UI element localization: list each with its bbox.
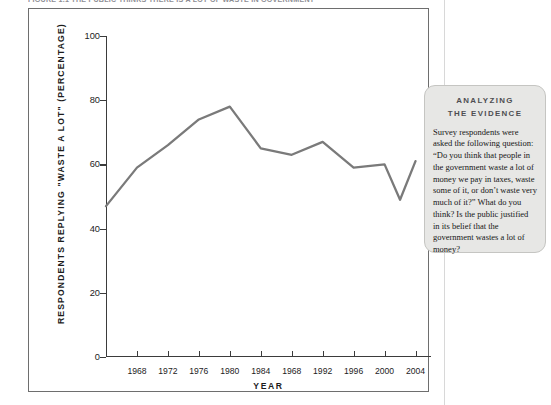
x-tick-label: 1976 bbox=[189, 366, 208, 376]
sidebar-heading: ANALYZING THE EVIDENCE bbox=[433, 95, 537, 121]
y-tick-label: 40 bbox=[90, 224, 100, 234]
x-tick-label: 2000 bbox=[375, 366, 394, 376]
y-tick-mark bbox=[100, 357, 106, 358]
sidebar-heading-line-2: THE EVIDENCE bbox=[433, 108, 537, 121]
x-tick-label: 1984 bbox=[251, 366, 270, 376]
y-tick-labels: 020406080100 bbox=[66, 36, 100, 357]
analyzing-the-evidence-box: ANALYZING THE EVIDENCE Survey respondent… bbox=[424, 85, 546, 253]
sidebar-heading-line-1: ANALYZING bbox=[433, 95, 537, 108]
data-series-line bbox=[106, 36, 431, 357]
x-tick-label: 2004 bbox=[406, 366, 425, 376]
x-axis-title: YEAR bbox=[106, 381, 431, 391]
y-tick-label: 0 bbox=[95, 352, 100, 362]
y-tick-label: 100 bbox=[84, 31, 100, 41]
y-tick-label: 20 bbox=[90, 288, 100, 298]
y-axis-title: RESPONDENTS REPLYING "WASTE A LOT" (PERC… bbox=[56, 24, 66, 324]
x-tick-label: 1980 bbox=[220, 366, 239, 376]
figure-caption: FIGURE 1.1 THE PUBLIC THINKS THERE IS A … bbox=[28, 0, 428, 5]
figure-frame: RESPONDENTS REPLYING "WASTE A LOT" (PERC… bbox=[28, 8, 429, 392]
x-tick-labels: 1968197219761980198419681992199620002004 bbox=[106, 366, 431, 378]
x-tick-label: 1996 bbox=[344, 366, 363, 376]
y-tick-label: 60 bbox=[90, 159, 100, 169]
x-tick-label: 1968 bbox=[127, 366, 146, 376]
plot-area: 020406080100 196819721976198019841968199… bbox=[106, 36, 431, 357]
x-tick-label: 1972 bbox=[158, 366, 177, 376]
y-tick-label: 80 bbox=[90, 95, 100, 105]
sidebar-body-text: Survey respondents were asked the follow… bbox=[433, 127, 537, 256]
x-tick-label: 1992 bbox=[313, 366, 332, 376]
x-tick-label: 1968 bbox=[282, 366, 301, 376]
